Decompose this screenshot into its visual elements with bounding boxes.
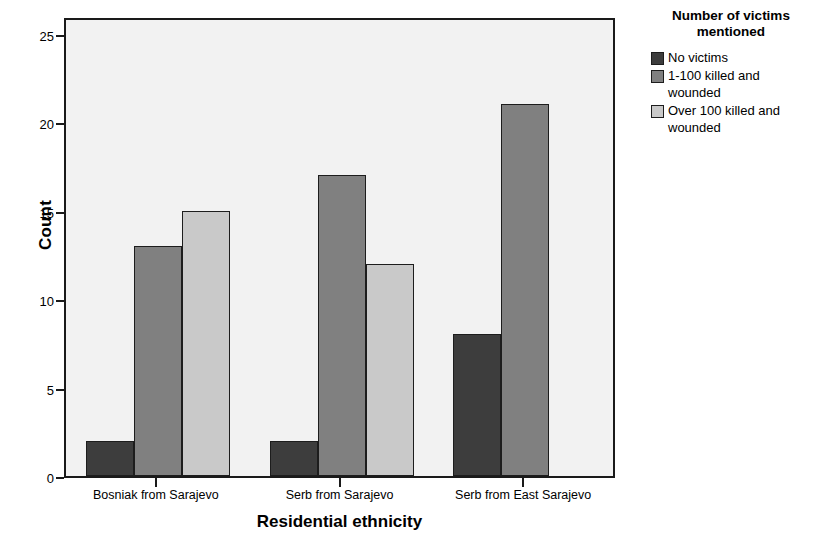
y-tick-mark bbox=[56, 35, 64, 37]
y-tick-label: 5 bbox=[24, 382, 54, 397]
y-tick-mark bbox=[56, 389, 64, 391]
plot-area bbox=[64, 18, 615, 478]
bar bbox=[270, 441, 318, 476]
legend-swatch-icon bbox=[651, 105, 664, 118]
legend-item: No victims bbox=[651, 50, 811, 67]
legend-item-label: No victims bbox=[668, 50, 728, 67]
legend-entries: No victims1-100 killed and woundedOver 1… bbox=[651, 50, 811, 137]
y-tick-label: 0 bbox=[24, 471, 54, 486]
bar bbox=[134, 246, 182, 476]
bar bbox=[453, 334, 501, 476]
y-tick-mark bbox=[56, 300, 64, 302]
x-tick-label: Serb from Sarajevo bbox=[286, 488, 394, 502]
x-tick-mark bbox=[522, 478, 524, 487]
bar bbox=[182, 211, 230, 476]
bars-container bbox=[66, 20, 613, 476]
y-axis-title: Count bbox=[36, 165, 56, 285]
legend-item-label: Over 100 killed and wounded bbox=[668, 103, 811, 136]
y-tick-mark bbox=[56, 123, 64, 125]
y-tick-label: 20 bbox=[24, 117, 54, 132]
legend-title: Number of victims mentioned bbox=[651, 8, 811, 40]
x-tick-mark bbox=[155, 478, 157, 487]
y-tick-label: 10 bbox=[24, 294, 54, 309]
legend-swatch-icon bbox=[651, 52, 664, 65]
bar bbox=[86, 441, 134, 476]
x-tick-label: Bosniak from Sarajevo bbox=[93, 488, 219, 502]
legend-title-line-1: Number of victims bbox=[653, 8, 809, 24]
x-axis-title: Residential ethnicity bbox=[64, 512, 615, 532]
legend-title-line-2: mentioned bbox=[653, 24, 809, 40]
y-tick-mark bbox=[56, 212, 64, 214]
legend: Number of victims mentioned No victims1-… bbox=[651, 8, 811, 138]
y-tick-label: 25 bbox=[24, 28, 54, 43]
bar bbox=[318, 175, 366, 476]
bar bbox=[366, 264, 414, 476]
chart-figure: Count 0510152025 Bosniak from SarajevoSe… bbox=[0, 0, 818, 544]
legend-item: 1-100 killed and wounded bbox=[651, 68, 811, 101]
y-tick-mark bbox=[56, 477, 64, 479]
bar bbox=[501, 104, 549, 476]
legend-item: Over 100 killed and wounded bbox=[651, 103, 811, 136]
legend-item-label: 1-100 killed and wounded bbox=[668, 68, 811, 101]
legend-swatch-icon bbox=[651, 70, 664, 83]
x-tick-mark bbox=[339, 478, 341, 487]
x-tick-label: Serb from East Sarajevo bbox=[455, 488, 591, 502]
y-tick-label: 15 bbox=[24, 205, 54, 220]
